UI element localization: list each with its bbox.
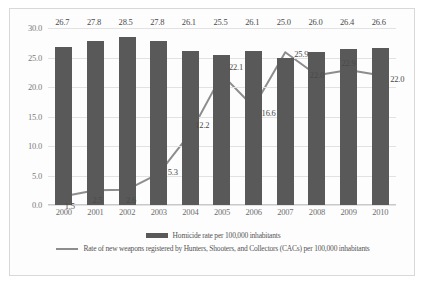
bar-slot: 25.5 (206, 28, 238, 205)
line-value-label: 5.3 (168, 167, 178, 177)
bar-value-label: 28.5 (119, 17, 133, 27)
bar[interactable]: 26.7 (55, 47, 72, 205)
bar[interactable]: 26.1 (245, 51, 262, 205)
legend-item-label: Rate of new weapons registered by Hunter… (83, 244, 369, 253)
bar-swatch-icon (146, 233, 168, 238)
x-axis-tick-label: 2002 (111, 207, 143, 223)
plot-area: 26.727.828.527.826.125.526.125.026.026.4… (48, 28, 396, 205)
x-axis-tick-label: 2009 (333, 207, 365, 223)
x-axis-tick-label: 2004 (175, 207, 207, 223)
y-axis-tick-label: 10.0 (28, 141, 42, 151)
bar-value-label: 26.1 (182, 17, 196, 27)
x-axis-tick-label: 2007 (269, 207, 301, 223)
bar-slot: 27.8 (143, 28, 175, 205)
bar-value-label: 27.8 (150, 17, 164, 27)
chart-container: 0.05.010.015.020.025.030.0 26.727.828.52… (9, 8, 415, 276)
chart-legend: Homicide rate per 100,000 inhabitants Ra… (10, 231, 416, 257)
bar-slot: 28.5 (111, 28, 143, 205)
bar[interactable]: 25.0 (277, 58, 294, 206)
x-axis-tick-label: 2003 (143, 207, 175, 223)
line-value-label: 22.0 (390, 74, 404, 84)
y-axis-tick-label: 20.0 (28, 82, 42, 92)
bar-value-label: 25.5 (213, 17, 227, 27)
bar-value-label: 26.7 (55, 17, 69, 27)
bar-value-label: 27.8 (87, 17, 101, 27)
y-axis-tick-label: 25.0 (28, 53, 42, 63)
bar[interactable]: 27.8 (150, 41, 167, 205)
bar-value-label: 26.4 (340, 17, 354, 27)
x-axis-tick-label: 2005 (206, 207, 238, 223)
bar[interactable]: 26.4 (340, 49, 357, 205)
x-axis-tick-label: 2001 (80, 207, 112, 223)
y-axis-tick-label: 30.0 (28, 23, 42, 33)
bar-value-label: 26.1 (245, 17, 259, 27)
x-axis-tick-label: 2010 (364, 207, 396, 223)
bar-slot: 26.4 (333, 28, 365, 205)
line-value-label: 12.2 (195, 120, 209, 130)
y-axis-tick-label: 0.0 (32, 200, 42, 210)
bar[interactable]: 26.6 (372, 48, 389, 205)
line-value-label: 25.9 (294, 49, 308, 59)
bar[interactable]: 28.5 (119, 37, 136, 205)
bar-slot: 26.1 (175, 28, 207, 205)
bar-value-label: 26.0 (308, 17, 322, 27)
line-value-label: 16.6 (262, 108, 276, 118)
bar-value-label: 26.6 (372, 17, 386, 27)
legend-item-homicide-rate[interactable]: Homicide rate per 100,000 inhabitants (10, 231, 416, 240)
line-value-label: 2.6 (126, 195, 136, 205)
bar-value-label: 25.0 (277, 17, 291, 27)
x-axis-tick-label: 2000 (48, 207, 80, 223)
x-axis: 2000200120022003200420052006200720082009… (48, 207, 396, 223)
line-value-label: 22.1 (229, 62, 243, 72)
line-swatch-icon (56, 248, 78, 250)
legend-item-weapons-registered[interactable]: Rate of new weapons registered by Hunter… (10, 244, 416, 253)
line-value-label: 2.5 (92, 195, 102, 205)
y-axis-tick-label: 5.0 (32, 171, 42, 181)
x-axis-tick-label: 2006 (238, 207, 270, 223)
y-axis-tick-label: 15.0 (28, 112, 42, 122)
bar[interactable]: 27.8 (87, 41, 104, 205)
line-value-label: 22.0 (310, 70, 324, 80)
bar[interactable]: 25.5 (213, 55, 230, 205)
legend-item-label: Homicide rate per 100,000 inhabitants (173, 231, 281, 240)
line-value-label: 22.9 (341, 58, 355, 68)
bar-slot: 26.7 (48, 28, 80, 205)
bar-slot: 27.8 (80, 28, 112, 205)
x-axis-tick-label: 2008 (301, 207, 333, 223)
y-axis: 0.05.010.015.020.025.030.0 (10, 9, 46, 205)
bar-slot: 26.6 (364, 28, 396, 205)
